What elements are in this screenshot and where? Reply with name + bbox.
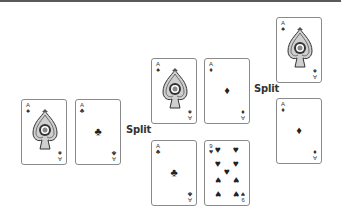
diamond-icon: ♦ xyxy=(312,149,318,155)
top-border-bar xyxy=(0,0,341,2)
heart-icon: ♥ xyxy=(240,191,246,197)
card-ace-of-spades-initial: A ♠ A ♠ xyxy=(21,99,67,165)
diamond-icon: ♦ xyxy=(240,109,246,115)
heart-pip-icon: ♥ xyxy=(215,189,221,199)
ornate-spade-icon xyxy=(31,109,59,153)
diamond-icon: ♦ xyxy=(277,125,321,136)
card-corner-top: A ♣ xyxy=(155,143,161,155)
heart-pip-icon: ♥ xyxy=(233,175,239,185)
spade-icon: ♠ xyxy=(187,109,193,115)
ornate-spade-icon xyxy=(286,27,314,71)
card-ace-of-spades-resplit: A ♠ A ♠ xyxy=(276,17,322,83)
card-nine-of-hearts-hand-2: 9 ♥ ♥ ♥ ♥ ♥ ♥ ♥ ♥ ♥ ♥ 9 ♥ xyxy=(204,140,250,206)
spade-icon: ♠ xyxy=(312,68,318,74)
card-corner-bottom: A ♦ xyxy=(312,149,318,161)
diamond-icon: ♦ xyxy=(208,67,214,73)
card-corner-top: A ♦ xyxy=(208,61,214,73)
card-corner-bottom: A ♠ xyxy=(187,109,193,121)
split-label-second: Split xyxy=(254,83,279,94)
heart-pip-icon: ♥ xyxy=(224,167,230,177)
split-label-first: Split xyxy=(126,124,151,135)
card-corner-bottom: A ♣ xyxy=(187,191,193,203)
club-icon: ♣ xyxy=(79,108,85,114)
card-corner-bottom: A ♣ xyxy=(111,150,117,162)
heart-pip-icon: ♥ xyxy=(233,189,239,199)
heart-pip-icon: ♥ xyxy=(215,175,221,185)
card-corner-bottom: A ♠ xyxy=(312,68,318,80)
club-icon: ♣ xyxy=(111,150,117,156)
ornate-spade-icon xyxy=(161,68,189,112)
diamond-icon: ♦ xyxy=(280,107,286,113)
heart-pip-icon: ♥ xyxy=(233,145,239,155)
card-ace-of-diamonds-hand-1: A ♦ ♦ A ♦ xyxy=(204,58,250,124)
club-icon: ♣ xyxy=(187,191,193,197)
heart-pip-icon: ♥ xyxy=(215,145,221,155)
spade-icon: ♠ xyxy=(57,150,63,156)
card-ace-of-clubs-hand-2: A ♣ ♣ A ♣ xyxy=(151,140,197,206)
card-corner-top: A ♣ xyxy=(79,102,85,114)
card-corner-bottom: A ♦ xyxy=(240,109,246,121)
diamond-icon: ♦ xyxy=(205,85,249,96)
heart-pip-icon: ♥ xyxy=(233,159,239,169)
card-ace-of-clubs-initial: A ♣ ♣ A ♣ xyxy=(75,99,121,165)
card-ace-of-diamonds-resplit: A ♦ ♦ A ♦ xyxy=(276,98,322,164)
club-icon: ♣ xyxy=(152,167,196,178)
club-icon: ♣ xyxy=(155,149,161,155)
card-corner-top: A ♦ xyxy=(280,101,286,113)
club-icon: ♣ xyxy=(76,126,120,137)
heart-pip-icon: ♥ xyxy=(215,159,221,169)
card-ace-of-spades-hand-1: A ♠ A ♠ xyxy=(151,58,197,124)
card-corner-bottom: A ♠ xyxy=(57,150,63,162)
card-corner-bottom: 9 ♥ xyxy=(240,191,246,203)
